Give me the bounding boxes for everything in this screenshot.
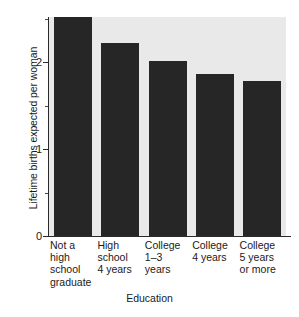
y-tick-label-1: 1 [28, 144, 42, 155]
bar-series [49, 17, 286, 236]
x-tick-label-4: College 5 years or more [240, 239, 285, 276]
bar-chart-figure: Lifetime births expected per woman 0 1 2… [0, 0, 299, 317]
bar-3 [196, 74, 234, 236]
x-tick-label-2: College 1–3 years [145, 239, 190, 276]
x-axis-title: Education [0, 292, 299, 304]
x-axis-line [48, 236, 291, 237]
x-tick-label-0: Not a high school graduate [50, 239, 95, 288]
x-axis-tick-labels: Not a high school graduate High school 4… [49, 239, 286, 295]
bar-4 [243, 81, 281, 236]
bar-0 [54, 17, 92, 236]
y-tick-label-0: 0 [28, 231, 42, 242]
bar-2 [149, 61, 187, 236]
y-tick-label-2: 2 [28, 57, 42, 68]
y-axis-tick-labels: 0 1 2 [26, 0, 42, 317]
x-tick-label-1: High school 4 years [97, 239, 142, 276]
x-tick-label-3: College 4 years [192, 239, 237, 263]
bar-1 [101, 43, 139, 236]
